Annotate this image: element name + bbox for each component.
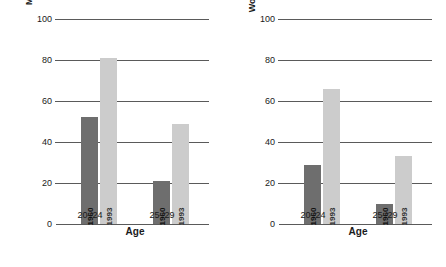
tick-40-women: [278, 142, 284, 143]
x-axis-line-women: [279, 224, 432, 225]
panel-women: Women remaining single (%) 100 80 60 40 …: [223, 0, 446, 267]
tick-80-women: [278, 60, 284, 61]
tick-20-men: [55, 183, 61, 184]
x-axis-title-women: Age: [284, 226, 432, 237]
x-tick-label-20-24-women: 20–24: [283, 210, 343, 220]
y-tick-label-0-women: 0: [270, 220, 275, 229]
tick-80-men: [55, 60, 61, 61]
y-tick-label-80-men: 80: [42, 56, 52, 65]
panel-men: Men remaining single (%) 100 80 60 40 20…: [0, 0, 223, 267]
y-tick-label-40-women: 40: [265, 138, 275, 147]
gridline-60-women: [284, 101, 432, 102]
y-tick-label-80-women: 80: [265, 56, 275, 65]
y-tick-label-40-men: 40: [42, 138, 52, 147]
tick-40-men: [55, 142, 61, 143]
gridline-100-women: [284, 19, 432, 20]
y-tick-label-100-women: 100: [260, 15, 275, 24]
y-axis-title-women: Women remaining single (%): [245, 0, 259, 42]
gridline-80-women: [284, 60, 432, 61]
y-axis-title-men: Men remaining single (%): [22, 0, 36, 42]
y-tick-label-20-men: 20: [42, 179, 52, 188]
x-tick-label-25-29-women: 25–29: [355, 210, 415, 220]
gridline-40-women: [284, 142, 432, 143]
x-tick-label-25-29-men: 25–29: [132, 210, 192, 220]
y-tick-label-60-women: 60: [265, 97, 275, 106]
y-tick-label-0-men: 0: [47, 220, 52, 229]
y-tick-label-100-men: 100: [37, 15, 52, 24]
tick-20-women: [278, 183, 284, 184]
gridline-80-men: [61, 60, 209, 61]
bar-women-20-24-1993: 1993: [323, 89, 340, 224]
x-axis-line-men: [56, 224, 209, 225]
tick-60-women: [278, 101, 284, 102]
bar-men-20-24-1960: 1960: [81, 117, 98, 224]
tick-60-men: [55, 101, 61, 102]
y-tick-label-20-women: 20: [265, 179, 275, 188]
gridline-60-men: [61, 101, 209, 102]
plot-area-women: 100 80 60 40 20 0 1960 1993 1960: [284, 19, 432, 224]
gridline-100-men: [61, 19, 209, 20]
bar-men-20-24-1993: 1993: [100, 58, 117, 224]
x-axis-title-men: Age: [61, 226, 209, 237]
y-tick-label-60-men: 60: [42, 97, 52, 106]
bar-men-25-29-1993: 1993: [172, 124, 189, 224]
tick-100-men: [55, 19, 61, 20]
plot-area-men: 100 80 60 40 20 0 1960 1993: [61, 19, 209, 224]
tick-100-women: [278, 19, 284, 20]
figure-two-panel-bar-charts: Men remaining single (%) 100 80 60 40 20…: [0, 0, 446, 267]
x-tick-label-20-24-men: 20–24: [60, 210, 120, 220]
